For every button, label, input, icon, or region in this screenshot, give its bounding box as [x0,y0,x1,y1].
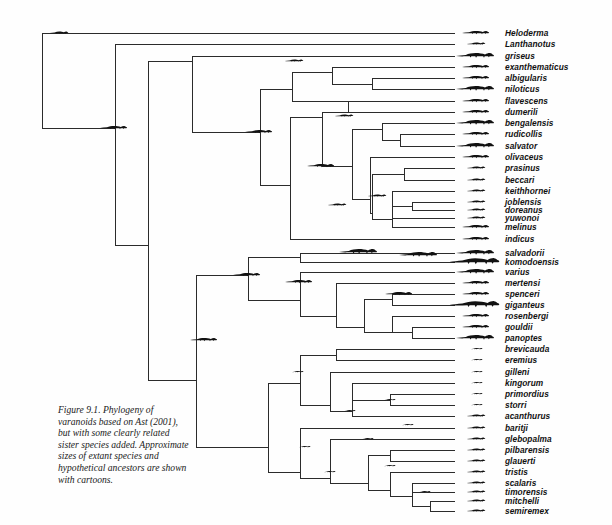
tip-silhouette-yuwonoi [467,217,485,219]
tip-label-Lanthanotus: Lanthanotus [505,40,555,48]
tip-label-brevicauda: brevicauda [505,345,549,353]
tip-silhouette-mertensi [462,281,489,284]
tip-label-tristis: tristis [505,468,528,476]
tip-silhouette-scalaris [467,482,485,484]
tip-silhouette-kingorum [470,382,482,384]
tip-label-timorensis: timorensis [505,488,547,496]
tip-silhouette-olivaceus [462,155,489,158]
ancestor-silhouette-7 [285,280,312,283]
ancestor-silhouette-4 [285,60,303,62]
tip-label-flavescens: flavescens [505,97,548,105]
tip-label-panoptes: panoptes [505,334,542,342]
tip-silhouette-melinus [462,225,489,228]
tip-silhouette-gilleni [470,371,482,373]
caption-line: but with some clearly related [58,427,236,439]
tip-label-pilbarensis: pilbarensis [505,446,549,454]
tip-silhouette-pilbarensis [467,449,485,451]
tip-silhouette-tristis [467,471,485,473]
tip-silhouette-salvator [456,143,494,148]
tip-silhouette-indicus [462,237,489,240]
caption-line: sizes of extant species and [58,450,236,462]
tip-label-komodoensis: komodoensis [505,258,559,266]
tip-label-gilleni: gilleni [505,368,529,376]
ancestor-silhouette-19 [383,465,395,467]
tip-silhouette-glauerti [467,460,485,462]
tip-silhouette-rudicollis [462,132,489,135]
ancestor-silhouette-6 [307,164,334,167]
tip-label-storri: storri [505,401,527,409]
tip-label-beccari: beccari [505,176,534,184]
tip-label-varius: varius [505,268,530,276]
tip-label-yuwonoi: yuwonoi [505,214,539,222]
tip-label-Heloderma: Heloderma [505,29,548,37]
tip-label-rosenbergi: rosenbergi [505,312,548,320]
tip-silhouette-exanthematicus [462,65,489,68]
tip-silhouette-griseus [456,53,494,58]
tip-label-giganteus: giganteus [505,301,545,309]
tip-label-spenceri: spenceri [505,290,540,298]
tip-label-acanthurus: acanthurus [505,412,550,420]
tip-label-melinus: melinus [505,223,537,231]
tip-silhouette-varius [456,269,494,274]
tip-silhouette-flavescens [462,99,489,102]
tip-label-keithhornei: keithhornei [505,187,550,195]
tip-silhouette-albigularis [462,76,489,79]
tip-silhouette-storri [470,404,482,406]
tip-silhouette-doreanus [467,209,485,211]
ancestor-silhouette-1 [100,126,127,129]
tip-label-olivaceus: olivaceus [505,153,543,161]
tip-silhouette-baritji [467,427,485,429]
tip-label-niloticus: niloticus [505,85,540,93]
tip-silhouette-Lanthanotus [467,43,485,45]
figure-page: HelodermaLanthanotusgriseusexanthematicu… [0,0,612,525]
tip-silhouette-primordius [470,393,482,395]
tip-label-rudicollis: rudicollis [505,130,542,138]
ancestor-silhouette-13 [385,292,412,295]
ancestor-silhouette-22 [401,424,413,426]
caption-line: varanoids based on Ast (2001), [58,416,236,428]
tip-label-indicus: indicus [505,235,534,243]
tip-label-scalaris: scalaris [505,479,536,487]
tip-silhouette-spenceri [462,292,489,295]
tip-silhouette-joblensis [467,201,485,203]
tip-silhouette-semiremex [467,510,485,512]
tip-label-mitchelli: mitchelli [505,497,539,505]
tip-silhouette-komodoensis [449,258,499,264]
tip-label-griseus: griseus [505,52,535,60]
caption-line: Figure 9.1. Phylogeny of [58,404,236,416]
tip-silhouette-salvadorii [456,250,494,255]
tip-silhouette-bengalensis [456,120,494,125]
tip-silhouette-giganteus [449,301,499,307]
tip-label-salvadorii: salvadorii [505,249,544,257]
tip-label-albigularis: albigularis [505,74,547,82]
tip-silhouette-mitchelli [467,500,485,502]
tip-silhouette-dumerili [462,110,489,113]
tip-label-glauerti: glauerti [505,457,535,465]
caption-line: hypothetical ancestors are shown [58,462,236,474]
tip-label-exanthematicus: exanthematicus [505,63,568,71]
caption-line: with cartoons. [58,474,236,486]
ancestor-silhouette-10 [368,195,386,197]
ancestor-silhouette-2 [190,338,217,341]
tip-label-eremius: eremius [505,356,537,364]
tip-label-primordius: primordius [505,390,549,398]
ancestor-silhouette-14 [291,371,303,373]
tip-silhouette-niloticus [456,86,494,91]
tip-silhouette-Heloderma [462,31,489,34]
tip-label-kingorum: kingorum [505,379,543,387]
figure-caption: Figure 9.1. Phylogeny ofvaranoids based … [58,404,236,485]
tip-silhouette-acanthurus [467,415,485,417]
tip-label-baritji: baritji [505,424,528,432]
ancestor-silhouette-5 [233,273,260,276]
tip-silhouette-panoptes [456,335,494,340]
ancestor-silhouette-3 [245,130,272,133]
tip-silhouette-eremius [470,359,482,361]
tip-silhouette-beccari [467,179,485,181]
tip-label-salvator: salvator [505,142,537,150]
tip-label-glebopalma: glebopalma [505,435,552,443]
tip-label-dumerili: dumerili [505,108,538,116]
tip-silhouette-brevicauda [470,348,482,350]
ancestor-silhouette-18 [323,471,335,473]
tip-silhouette-gouldii [462,325,489,328]
tip-silhouette-keithhornei [467,190,485,192]
